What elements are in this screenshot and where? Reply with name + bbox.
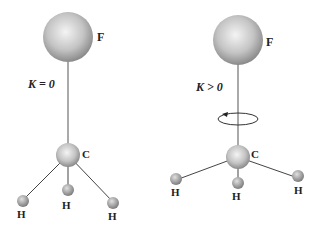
hydrogen-atom [17, 195, 29, 207]
atom-label-f: F [97, 30, 104, 44]
hydrogen-atom [232, 177, 244, 189]
hydrogen-atom [62, 184, 74, 196]
atom-label-c: C [251, 148, 259, 160]
hydrogen-atom [292, 170, 304, 182]
atom-label-h: H [294, 184, 303, 196]
carbon-atom [226, 145, 250, 169]
carbon-atom [56, 143, 80, 167]
atom-label-h: H [108, 210, 117, 222]
left-molecule: F C H H H K = 0 [17, 12, 119, 222]
hydrogen-atom [107, 197, 119, 209]
atom-label-h: H [232, 190, 241, 202]
ch3f-rotation-diagram: F C H H H K = 0 F C H H H K > 0 [0, 0, 318, 226]
k-label: K = 0 [27, 77, 55, 91]
hydrogen-atom [170, 173, 182, 185]
right-molecule: F C H H H K > 0 [170, 15, 304, 202]
fluorine-atom [43, 12, 93, 62]
k-label: K > 0 [195, 80, 223, 94]
fluorine-atom [213, 15, 263, 65]
atom-label-h: H [171, 186, 180, 198]
atom-label-c: C [82, 148, 90, 160]
atom-label-h: H [62, 199, 71, 211]
atom-label-h: H [17, 208, 26, 220]
atom-label-f: F [266, 35, 273, 49]
arrowhead-icon [222, 112, 228, 117]
